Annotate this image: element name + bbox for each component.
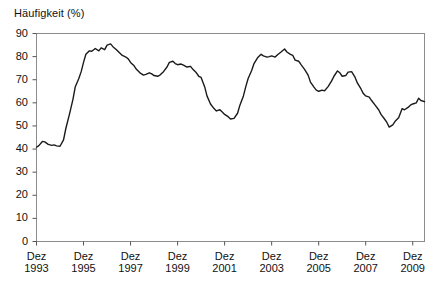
y-tick-label: 90: [2, 28, 28, 39]
y-tick-label: 20: [2, 189, 28, 200]
x-tick-label-year: 2009: [386, 262, 435, 274]
x-tick-label: Dez1995: [57, 250, 111, 274]
plot-frame: [37, 34, 425, 242]
x-tick-label-month: Dez: [198, 250, 252, 262]
x-tick-label-year: 2003: [245, 262, 299, 274]
plot-area: [0, 0, 435, 286]
x-tick-label-month: Dez: [10, 250, 64, 262]
x-tick-label-year: 1993: [10, 262, 64, 274]
x-tick-label-year: 2007: [339, 262, 393, 274]
y-tick-label: 60: [2, 97, 28, 108]
plot-frame-rect: [37, 34, 425, 242]
x-tick-label-month: Dez: [104, 250, 158, 262]
x-tick-label: Dez2003: [245, 250, 299, 274]
x-tick-label-year: 2001: [198, 262, 252, 274]
x-tick-label: Dez1999: [151, 250, 205, 274]
x-tick-label-month: Dez: [245, 250, 299, 262]
y-tick-label: 30: [2, 166, 28, 177]
y-tick-label: 70: [2, 74, 28, 85]
x-tick-label: Dez2009: [386, 250, 435, 274]
x-tick-label: Dez1997: [104, 250, 158, 274]
y-tick-label: 80: [2, 51, 28, 62]
x-tick-label-year: 2005: [292, 262, 346, 274]
x-tick-label: Dez1993: [10, 250, 64, 274]
x-tick-label: Dez2007: [339, 250, 393, 274]
y-tick-label: 10: [2, 212, 28, 223]
x-tick-label-month: Dez: [57, 250, 111, 262]
y-axis-ticks: [33, 34, 37, 242]
y-tick-label: 40: [2, 143, 28, 154]
x-tick-label-month: Dez: [339, 250, 393, 262]
y-tick-label: 0: [2, 236, 28, 247]
x-axis-ticks: [37, 242, 413, 246]
x-tick-label-year: 1999: [151, 262, 205, 274]
chart-container: Häufigkeit (%) 0102030405060708090 Dez19…: [0, 0, 435, 286]
x-tick-label-month: Dez: [386, 250, 435, 262]
x-tick-label: Dez2005: [292, 250, 346, 274]
x-tick-label-month: Dez: [292, 250, 346, 262]
x-tick-label-month: Dez: [151, 250, 205, 262]
x-tick-label: Dez2001: [198, 250, 252, 274]
y-tick-label: 50: [2, 120, 28, 131]
x-tick-label-year: 1995: [57, 262, 111, 274]
x-tick-label-year: 1997: [104, 262, 158, 274]
